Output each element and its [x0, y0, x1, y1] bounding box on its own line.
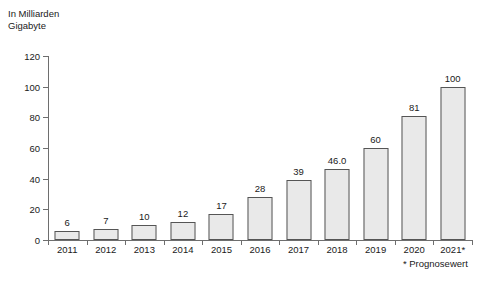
bar-group: 46.0 — [318, 56, 357, 240]
bar-value-label: 100 — [445, 73, 461, 84]
bar-group: 12 — [164, 56, 203, 240]
bar-group: 17 — [202, 56, 241, 240]
x-axis-label: 2018 — [327, 244, 348, 255]
bar — [209, 214, 234, 240]
bar-value-label: 10 — [139, 211, 150, 222]
y-axis-tick-label: 120 — [24, 51, 40, 62]
x-axis-tick — [433, 240, 434, 245]
bar-value-label: 60 — [370, 134, 381, 145]
x-axis-tick — [472, 240, 473, 245]
y-axis-tick-label: 40 — [29, 173, 40, 184]
unit-caption: In Milliarden Gigabyte — [8, 8, 59, 32]
x-axis-label: 2012 — [95, 244, 116, 255]
bar-group: 10 — [125, 56, 164, 240]
bar — [55, 231, 80, 240]
bar-group: 28 — [241, 56, 280, 240]
y-axis-tick-label: 60 — [29, 143, 40, 154]
x-axis-tick — [164, 240, 165, 245]
x-axis-tick — [202, 240, 203, 245]
bar — [325, 169, 350, 240]
x-axis-tick — [241, 240, 242, 245]
bar-value-label: 6 — [65, 217, 70, 228]
y-axis-tick-label: 80 — [29, 112, 40, 123]
x-axis-label: 2014 — [172, 244, 193, 255]
x-axis-line — [48, 240, 472, 241]
footnote: * Prognosewert — [403, 258, 468, 269]
y-axis-tick-label: 20 — [29, 204, 40, 215]
x-axis-tick — [395, 240, 396, 245]
x-axis-tick — [356, 240, 357, 245]
bar — [363, 148, 388, 240]
bar-group: 39 — [279, 56, 318, 240]
bar-group: 100 — [433, 56, 472, 240]
x-axis-label: 2013 — [134, 244, 155, 255]
bar-group: 6 — [48, 56, 87, 240]
bar — [440, 87, 465, 240]
x-axis-label: 2021* — [440, 244, 465, 255]
x-axis-tick — [279, 240, 280, 245]
bar-group: 81 — [395, 56, 434, 240]
x-axis-label: 2011 — [57, 244, 77, 255]
bar-group: 7 — [87, 56, 126, 240]
x-axis-label: 2016 — [249, 244, 270, 255]
x-axis-tick — [318, 240, 319, 245]
bar-value-label: 17 — [216, 200, 227, 211]
bar-value-label: 12 — [178, 208, 189, 219]
bar — [402, 116, 427, 240]
bar-value-label: 28 — [255, 183, 266, 194]
bar-value-label: 46.0 — [328, 155, 347, 166]
x-axis-label: 2020 — [404, 244, 425, 255]
chart-plot-area: 020406080100120 67101217283946.06081100 — [48, 56, 472, 240]
bar-group: 60 — [356, 56, 395, 240]
bar — [93, 229, 118, 240]
x-axis-label: 2019 — [365, 244, 386, 255]
bar-value-label: 39 — [293, 166, 304, 177]
x-axis-tick — [87, 240, 88, 245]
y-axis-tick-label: 0 — [35, 235, 40, 246]
x-axis-tick — [125, 240, 126, 245]
x-axis-label: 2015 — [211, 244, 232, 255]
x-axis-label: 2017 — [288, 244, 309, 255]
bar-value-label: 81 — [409, 102, 420, 113]
bar — [132, 225, 157, 240]
bar — [170, 222, 195, 240]
x-axis-tick — [48, 240, 49, 245]
bar — [286, 180, 311, 240]
y-axis-tick-label: 100 — [24, 81, 40, 92]
bar — [247, 197, 272, 240]
bar-value-label: 7 — [103, 215, 108, 226]
